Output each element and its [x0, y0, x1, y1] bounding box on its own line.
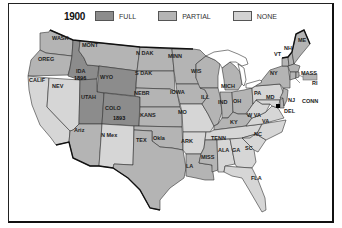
state-fla[interactable]: [224, 166, 266, 212]
label-calif: CALIF: [29, 77, 46, 83]
label-wis: WIS: [191, 68, 202, 74]
label-ida: IDA: [76, 68, 86, 74]
label-nj: NJ: [288, 97, 295, 103]
label-mo: MO: [178, 109, 188, 115]
state-nmex[interactable]: [99, 124, 134, 168]
label-oh: OH: [233, 98, 241, 104]
label-miss: MISS: [201, 154, 215, 160]
label-mass: MASS: [301, 70, 317, 76]
label-ariz: Ariz: [74, 127, 85, 133]
label-wash: WASH: [52, 35, 69, 41]
label-ny: NY: [270, 70, 278, 76]
label-vt: VT: [274, 51, 282, 57]
label-okla: Okla: [153, 135, 166, 141]
label-pa: PA: [254, 90, 261, 96]
state-mass[interactable]: [288, 64, 300, 72]
label-del: DEL: [284, 108, 296, 114]
label-tex: TEX: [136, 137, 147, 143]
label-ndak: N DAK: [136, 50, 153, 56]
label-mont: MONT: [82, 42, 99, 48]
label-md: MD: [266, 94, 275, 100]
year-colo: 1893: [113, 115, 125, 121]
label-sdak: S DAK: [135, 70, 152, 76]
label-conn: CONN: [302, 98, 318, 104]
label-va: VA: [262, 118, 269, 124]
state-me[interactable]: [292, 30, 310, 64]
label-sc: SC: [245, 145, 253, 151]
year-ida: 1896: [74, 75, 86, 81]
state-wyo[interactable]: [97, 66, 137, 96]
label-ill: ILL: [201, 94, 210, 100]
label-me: ME: [298, 37, 307, 43]
label-colo: COLO: [105, 105, 122, 111]
label-wyo: WYO: [100, 74, 114, 80]
state-wash[interactable]: [40, 30, 73, 56]
label-ala: ALA: [218, 147, 229, 153]
label-minn: MINN: [168, 53, 182, 59]
label-kans: KANS: [140, 112, 156, 118]
label-ark: ARK: [181, 138, 193, 144]
label-fla: FLA: [251, 175, 262, 181]
label-nev: NEV: [52, 83, 64, 89]
label-ri: RI: [312, 80, 318, 86]
label-nebr: NEBR: [134, 90, 150, 96]
label-iowa: IOWA: [170, 89, 185, 95]
label-nmex: N Mex: [101, 132, 118, 138]
label-mich: MICH: [221, 83, 235, 89]
label-ind: IND: [218, 99, 228, 105]
label-ky: KY: [230, 119, 238, 125]
state-ri[interactable]: [296, 72, 299, 78]
label-nc: NC: [254, 131, 262, 137]
label-tenn: TENN: [211, 135, 226, 141]
label-oreg: OREG: [38, 56, 54, 62]
label-la: LA: [186, 163, 193, 169]
us-map: WASH OREG CALIF NEV IDA 1896 MONT WYO UT…: [0, 0, 342, 228]
label-utah: UTAH: [81, 94, 96, 100]
state-conn[interactable]: [290, 72, 296, 80]
label-ga: GA: [232, 147, 240, 153]
label-wva: W VA: [247, 112, 261, 118]
label-nh: NH: [284, 45, 292, 51]
dc-marker: [276, 104, 280, 108]
